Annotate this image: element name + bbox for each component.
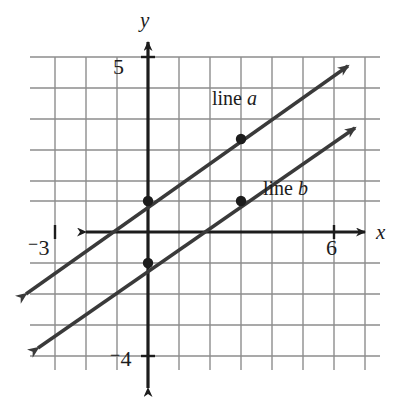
x-axis-label: x (376, 222, 385, 243)
minus-sign-icon: − (28, 235, 38, 253)
line-b-label-variable: b (298, 177, 308, 199)
x-tick-label-negative-3: −3 (28, 237, 50, 259)
line-b-label: line b (263, 178, 308, 198)
coordinate-plane (0, 0, 405, 414)
grid-lines (30, 57, 380, 370)
minus-sign-icon: − (110, 346, 120, 364)
y-tick-label-negative-4: −4 (110, 348, 132, 370)
x-tick-value-3: 3 (39, 235, 50, 260)
x-tick-label-6: 6 (326, 237, 337, 259)
graph-figure: y x 5 −3 6 −4 line a line b (0, 0, 405, 414)
y-tick-value-4: 4 (121, 346, 132, 371)
tick-marks (55, 57, 334, 356)
line-a-label-prefix: line (212, 87, 247, 109)
line-b-label-prefix: line (263, 177, 298, 199)
point-line-a-y-intercept (143, 196, 153, 206)
y-tick-label-5: 5 (113, 56, 124, 78)
line-a-label-variable: a (247, 87, 257, 109)
line-a-label: line a (212, 88, 257, 108)
point-line-a-second (236, 134, 246, 144)
point-line-b-second (236, 196, 246, 206)
y-axis-label: y (140, 10, 149, 31)
point-line-b-y-intercept (143, 258, 153, 268)
